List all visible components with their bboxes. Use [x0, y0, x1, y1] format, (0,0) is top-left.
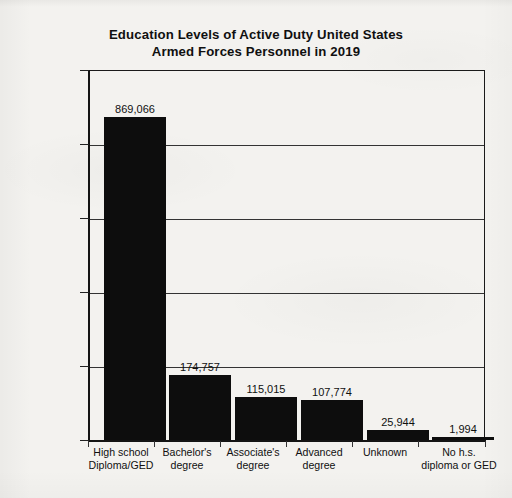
x-axis-label-line-1-cat-5: No h.s. — [409, 446, 509, 459]
y-axis-line — [88, 70, 90, 442]
bar-value-no-hs-diploma-or-ged: 1,994 — [423, 423, 503, 435]
chart-title: Education Levels of Active Duty United S… — [0, 26, 512, 60]
chart-title-line-1: Education Levels of Active Duty United S… — [0, 26, 512, 43]
x-axis-label-line-2-cat-1: degree — [154, 459, 220, 472]
bar-no-hs-diploma-or-ged[interactable] — [432, 437, 494, 440]
bar-high-school-diploma-ged[interactable] — [104, 117, 166, 440]
x-axis-label-line-2-cat-5: diploma or GED — [409, 459, 509, 472]
chart-title-line-2: Armed Forces Personnel in 2019 — [0, 43, 512, 60]
bar-value-bachelors-degree: 174,757 — [160, 361, 240, 373]
x-axis-label-line-1-cat-0: High school — [88, 446, 154, 459]
x-axis-label-no-hs-diploma-or-ged: No h.s. diploma or GED — [409, 446, 509, 472]
x-axis-line — [88, 440, 486, 442]
x-axis-label-advanced-degree: Advanced degree — [286, 446, 352, 472]
bar-advanced-degree[interactable] — [301, 400, 363, 440]
bar-value-high-school-diploma-ged: 869,066 — [95, 103, 175, 115]
bar-value-advanced-degree: 107,774 — [292, 386, 372, 398]
x-axis-label-associates-degree: Associate's degree — [220, 446, 286, 472]
x-axis-label-line-1-cat-2: Associate's — [220, 446, 286, 459]
x-axis-label-line-1-cat-1: Bachelor's — [154, 446, 220, 459]
y-tick-mark-400000 — [80, 292, 89, 293]
x-axis-label-line-1-cat-3: Advanced — [286, 446, 352, 459]
x-axis-label-high-school-diploma-ged: High school Diploma/GED — [88, 446, 154, 472]
y-tick-mark-600000 — [80, 218, 89, 219]
y-tick-mark-800000 — [80, 144, 89, 145]
x-axis-label-line-2-cat-3: degree — [286, 459, 352, 472]
y-tick-mark-200000 — [80, 366, 89, 367]
x-axis-label-line-2-cat-0: Diploma/GED — [88, 459, 154, 472]
bar-unknown[interactable] — [367, 430, 429, 440]
bar-associates-degree[interactable] — [235, 397, 297, 440]
bar-bachelors-degree[interactable] — [169, 375, 231, 440]
x-axis-label-line-2-cat-2: degree — [220, 459, 286, 472]
y-tick-mark-1000000 — [80, 70, 89, 71]
bar-chart-figure: Education Levels of Active Duty United S… — [0, 0, 512, 498]
x-axis-label-bachelors-degree: Bachelor's degree — [154, 446, 220, 472]
